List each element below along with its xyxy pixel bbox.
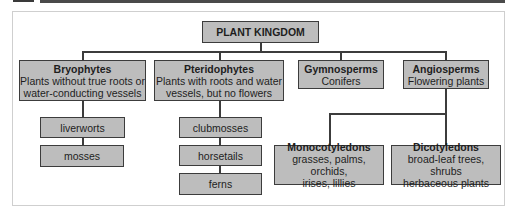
node-title: Monocotyledons [287, 141, 370, 153]
node-title: Pteridophytes [184, 63, 254, 75]
node-label: horsetails [198, 150, 243, 162]
node-monocotyledons: Monocotyledons grasses, palms, orchids, … [274, 145, 384, 185]
connector [329, 113, 446, 115]
node-title: Angiosperms [412, 63, 479, 75]
node-mosses: mosses [40, 145, 124, 167]
node-clubmosses: clubmosses [179, 117, 262, 138]
node-desc: Conifers [321, 75, 360, 87]
node-title: Dicotyledons [413, 141, 479, 153]
node-desc: grasses, palms, orchids, [275, 153, 383, 177]
connector [82, 51, 445, 53]
node-desc: water-conducting vessels [24, 87, 142, 99]
node-desc: irises, lillies [302, 177, 355, 189]
connector [445, 51, 447, 60]
node-desc: Flowering plants [408, 75, 484, 87]
node-label: mosses [64, 150, 100, 162]
connector [82, 51, 84, 60]
node-bryophytes: Bryophytes Plants without true roots or … [19, 60, 146, 101]
connector [340, 51, 342, 60]
node-angiosperms: Angiosperms Flowering plants [403, 60, 489, 89]
node-liverworts: liverworts [40, 117, 125, 138]
node-desc: Plants without true roots or [20, 75, 145, 87]
node-label: clubmosses [193, 122, 248, 134]
topbar [40, 0, 505, 3]
node-label: liverworts [60, 122, 104, 134]
node-horsetails: horsetails [179, 145, 262, 166]
node-pteridophytes: Pteridophytes Plants with roots and wate… [154, 60, 284, 101]
node-label: ferns [209, 178, 232, 190]
connector [219, 51, 221, 60]
node-title: PLANT KINGDOM [216, 26, 305, 38]
node-desc: herbaceous plants [403, 177, 489, 189]
node-ferns: ferns [179, 173, 262, 195]
node-title: Bryophytes [54, 63, 112, 75]
node-desc: Plants with roots and water [156, 75, 282, 87]
node-plant-kingdom: PLANT KINGDOM [202, 21, 319, 43]
node-desc: vessels, but no flowers [166, 87, 272, 99]
connector [445, 89, 447, 145]
node-gymnosperms: Gymnosperms Conifers [298, 60, 384, 89]
node-desc: broad-leaf trees, shrubs [392, 153, 500, 177]
node-title: Gymnosperms [304, 63, 378, 75]
node-dicotyledons: Dicotyledons broad-leaf trees, shrubs he… [391, 145, 501, 185]
topbar-square [13, 0, 34, 2]
